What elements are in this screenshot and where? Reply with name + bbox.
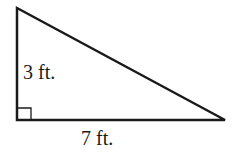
base-label: 7 ft. (81, 128, 113, 148)
triangle-figure (0, 0, 237, 168)
height-label: 3 ft. (23, 62, 55, 82)
right-angle-marker (17, 108, 31, 120)
